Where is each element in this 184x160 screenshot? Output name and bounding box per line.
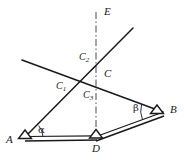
path-A-D-outer <box>25 140 97 141</box>
label-C2: C2 <box>79 52 89 62</box>
label-B: B <box>170 104 177 115</box>
label-C: C <box>104 68 111 79</box>
label-C1-base: C <box>56 80 63 91</box>
station-marker-B <box>151 105 164 114</box>
label-beta: β <box>133 103 139 113</box>
ray-to-B-line <box>22 60 163 112</box>
diagram-canvas <box>0 0 184 160</box>
label-C2-sub: 2 <box>86 56 90 64</box>
label-C2-base: C <box>79 51 86 62</box>
label-D: D <box>92 143 100 154</box>
path-D-B-outer <box>96 116 164 141</box>
station-marker-D <box>90 130 103 139</box>
label-C1-sub: 1 <box>63 85 67 93</box>
label-C1: C1 <box>56 81 66 91</box>
path-A-D-inner <box>26 136 96 137</box>
path-D-B-inner <box>97 113 162 137</box>
figure-root: E C2 C C1 C3 A D B α β <box>0 0 184 160</box>
label-C3: C3 <box>83 90 93 100</box>
label-E: E <box>104 6 111 17</box>
label-A: A <box>6 134 13 145</box>
label-C3-base: C <box>83 89 90 100</box>
station-marker-A <box>19 130 32 139</box>
label-alpha: α <box>38 125 45 135</box>
ray-from-A-line <box>25 28 133 137</box>
angle-arc-beta <box>141 105 143 120</box>
label-C3-sub: 3 <box>90 94 94 102</box>
